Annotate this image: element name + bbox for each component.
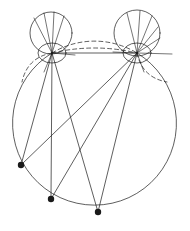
lower-mid-vertex-dot [48,196,54,202]
lower-left-vertex-dot [18,162,24,168]
right-fan-1 [127,13,137,53]
right-fan-4 [137,27,158,53]
edges-layer [21,53,137,212]
figure-container [0,0,190,231]
left-node-to-lower-right [52,53,98,212]
right-node-to-lower-mid [51,53,137,199]
right-stub-right [137,53,172,54]
main-circle-solid-arc [12,53,176,205]
geometric-diagram [0,0,190,231]
left-fan-2 [44,13,52,53]
nodes-layer [18,162,101,215]
left-node-to-lower-left [21,53,52,165]
main-circle-dashed-arc [52,41,137,53]
right-node-to-lower-right [98,53,137,212]
left-node-to-lower-mid [51,53,52,199]
lower-right-vertex-dot [95,209,101,215]
left-fan-1 [34,18,52,53]
right-node-to-lower-left [21,53,137,165]
